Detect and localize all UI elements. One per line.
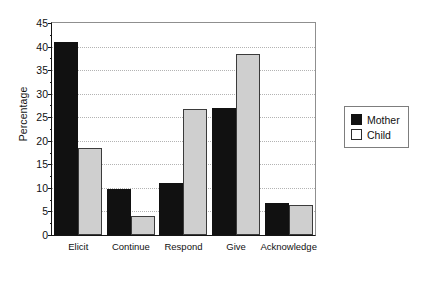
mother-swatch-icon [351,114,362,125]
bar-mother [54,42,78,235]
bar-child [131,216,155,235]
child-swatch-icon [351,129,362,140]
bars-layer: ElicitContinueRespondGiveAcknowledge [52,23,315,235]
legend-label-mother: Mother [367,114,400,126]
bar-group: Elicit [52,23,105,235]
bar-group: Respond [157,23,210,235]
bar-group: Give [210,23,263,235]
legend-item-mother: Mother [351,112,400,127]
y-tick-mark [48,235,52,236]
bar-mother [159,183,183,235]
bar-group: Continue [105,23,158,235]
bar-mother [212,108,236,235]
x-tick-label: Elicit [68,241,88,252]
y-axis-title: Percentage [17,54,29,174]
x-tick-label: Continue [112,241,150,252]
x-tick-label: Give [226,241,246,252]
bar-group: Acknowledge [262,23,315,235]
bar-child [183,109,207,235]
bar-child [289,205,313,235]
y-tick-label: 15 [36,158,48,170]
y-tick-label: 10 [36,182,48,194]
y-tick-label: 35 [36,64,48,76]
legend-label-child: Child [367,129,391,141]
bar-child [236,54,260,235]
legend-item-child: Child [351,127,400,142]
y-tick-label: 5 [42,205,48,217]
chart-legend: Mother Child [344,106,409,148]
x-tick-label: Respond [164,241,202,252]
y-tick-label: 25 [36,111,48,123]
y-tick-label: 40 [36,41,48,53]
y-tick-label: 0 [42,229,48,241]
y-tick-label: 45 [36,17,48,29]
bar-child [78,148,102,235]
y-tick-label: 20 [36,135,48,147]
bar-mother [265,203,289,235]
bar-chart-figure: Percentage 051015202530354045 ElicitCont… [0,0,431,281]
y-tick-label: 30 [36,88,48,100]
plot-area: 051015202530354045 ElicitContinueRespond… [51,22,316,236]
bar-mother [107,189,131,235]
x-tick-label: Acknowledge [260,241,317,252]
